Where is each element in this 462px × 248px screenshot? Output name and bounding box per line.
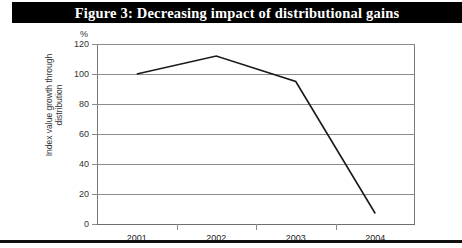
plot-area: 020406080100120 2001200220032004 [97,44,415,224]
y-axis-title-line-2: distribution [54,10,64,200]
x-tick-2002 [177,224,178,230]
x-tick-2003 [256,224,257,230]
y-axis-unit-label: % [80,29,88,39]
figure-title: Figure 3: Decreasing impact of distribut… [12,4,462,21]
y-tick-label-40: 40 [79,159,89,169]
y-axis-title-line-1: Index value growth through [44,10,54,200]
y-tick-label-100: 100 [74,69,89,79]
figure-title-bar: Figure 3: Decreasing impact of distribut… [12,2,462,23]
x-tick-2004 [336,224,337,230]
y-axis-title: Index value growth through distribution [44,10,64,200]
y-tick-label-60: 60 [79,129,89,139]
y-tick-label-20: 20 [79,189,89,199]
series-line-chart [97,44,415,224]
y-tick-label-120: 120 [74,39,89,49]
y-tick-label-0: 0 [84,219,89,229]
figure-container: Figure 3: Decreasing impact of distribut… [0,0,462,248]
bottom-divider [0,240,462,243]
y-tick-label-80: 80 [79,99,89,109]
y-tick-0 [92,224,97,225]
series-polyline [137,56,376,214]
